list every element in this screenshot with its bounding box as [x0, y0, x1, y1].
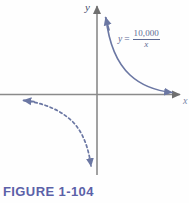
y-axis-label: y [85, 2, 90, 13]
fraction-numerator: 10,000 [133, 29, 160, 39]
x-axis-label: x [183, 96, 187, 106]
fraction-denominator: x [144, 40, 148, 50]
equation-fraction: 10,000 x [133, 29, 160, 50]
equation-equals-sign: = [124, 35, 129, 45]
equation-annotation: y = 10,000 x [118, 29, 160, 50]
plot-svg [0, 0, 189, 182]
plot-area [0, 0, 189, 182]
figure-container: y x y = 10,000 x FIGURE 1-104 [0, 0, 189, 203]
figure-caption: FIGURE 1-104 [3, 184, 94, 199]
equation-lhs: y [118, 35, 122, 45]
curve-branch-negative [24, 101, 91, 167]
